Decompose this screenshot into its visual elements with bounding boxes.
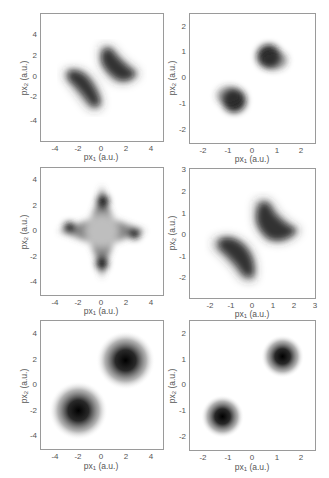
y-tick: 1: [182, 210, 186, 218]
y-tick: -1: [179, 100, 186, 108]
x-tick: 4: [149, 453, 153, 461]
y-tick: -4: [30, 432, 37, 440]
y-tick: 4: [33, 31, 37, 39]
y-tick: 0: [33, 227, 37, 235]
plot-area: [189, 168, 316, 299]
density-map: [190, 14, 315, 143]
y-tick: 1: [182, 356, 186, 364]
y-tick: 3: [182, 166, 186, 174]
x-tick: 4: [149, 299, 153, 307]
x-axis-label: px1 (a.u.): [235, 309, 270, 319]
x-tick: 0: [99, 453, 103, 461]
y-axis-label: px2 (a.u.): [19, 369, 29, 404]
x-tick: 0: [250, 454, 254, 462]
x-tick: 1: [275, 147, 279, 155]
x-tick: 1: [275, 454, 279, 462]
x-axis-label: px1 (a.u.): [235, 154, 270, 164]
y-tick: -2: [179, 274, 186, 282]
x-tick: -4: [51, 453, 58, 461]
y-axis-label: px2 (a.u.): [167, 61, 177, 96]
x-axis-label: px1 (a.u.): [84, 306, 119, 316]
plot-area: [189, 320, 316, 451]
y-tick: 4: [33, 330, 37, 338]
x-tick: -2: [206, 302, 213, 310]
plot-area: [40, 13, 164, 142]
y-tick: 0: [33, 381, 37, 389]
x-tick: 2: [299, 454, 303, 462]
x-tick: 1: [271, 302, 275, 310]
y-tick: 2: [182, 23, 186, 31]
plot-area: [189, 13, 316, 144]
plot-area: [40, 167, 164, 296]
y-axis-label: px2 (a.u.): [167, 369, 177, 404]
x-axis-label: px1 (a.u.): [235, 462, 270, 472]
y-tick: 0: [182, 231, 186, 239]
x-tick: 2: [124, 145, 128, 153]
y-axis-label: px2 (a.u.): [19, 61, 29, 96]
x-tick: -1: [227, 302, 234, 310]
y-tick: 2: [33, 356, 37, 364]
x-tick: 3: [313, 302, 317, 310]
y-tick: 2: [33, 52, 37, 60]
x-tick: 4: [149, 145, 153, 153]
y-tick: 0: [33, 73, 37, 81]
x-tick: -2: [199, 454, 206, 462]
y-tick: 2: [182, 188, 186, 196]
y-tick: -2: [30, 93, 37, 101]
y-tick: 2: [182, 330, 186, 338]
density-map: [41, 14, 163, 141]
y-axis-label: px2 (a.u.): [167, 216, 177, 251]
x-tick: 2: [299, 147, 303, 155]
x-tick: -4: [51, 299, 58, 307]
density-map: [190, 321, 315, 450]
x-tick: -1: [224, 147, 231, 155]
y-tick: 4: [33, 176, 37, 184]
x-tick: -2: [74, 145, 81, 153]
y-tick: -1: [179, 407, 186, 415]
x-axis-label: px1 (a.u.): [84, 461, 119, 471]
y-axis-label: px2 (a.u.): [19, 215, 29, 250]
y-tick: -2: [179, 126, 186, 134]
x-tick: -2: [199, 147, 206, 155]
x-tick: 2: [124, 299, 128, 307]
y-tick: -2: [179, 433, 186, 441]
y-tick: 0: [182, 381, 186, 389]
x-tick: -4: [51, 145, 58, 153]
y-tick: 1: [182, 48, 186, 56]
density-map: [41, 321, 163, 449]
x-tick: -2: [74, 453, 81, 461]
y-tick: -2: [30, 253, 37, 261]
y-tick: -4: [30, 117, 37, 125]
x-tick: 2: [292, 302, 296, 310]
y-tick: 2: [33, 202, 37, 210]
y-tick: -4: [30, 278, 37, 286]
plot-area: [40, 320, 164, 450]
y-tick: 0: [182, 74, 186, 82]
density-map: [190, 169, 315, 298]
x-tick: -2: [74, 299, 81, 307]
x-tick: -1: [224, 454, 231, 462]
x-axis-label: px1 (a.u.): [84, 152, 119, 162]
y-tick: -2: [30, 407, 37, 415]
density-map: [41, 168, 163, 295]
y-tick: -1: [179, 253, 186, 261]
x-tick: 2: [124, 453, 128, 461]
